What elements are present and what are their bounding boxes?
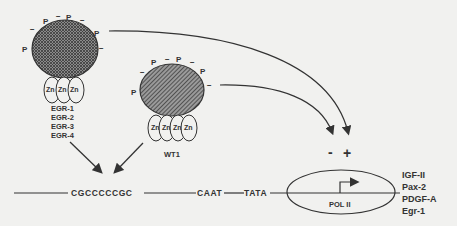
zinc-finger-label: Zn bbox=[173, 124, 182, 131]
pol-ii-label: POL II bbox=[329, 200, 351, 209]
wt1-zinc-fingers: Zn Zn Zn Zn bbox=[148, 115, 197, 141]
egr-label: EGR-1 bbox=[51, 104, 74, 113]
phospho-label: P bbox=[22, 45, 28, 54]
repression-sign: - bbox=[328, 144, 333, 160]
charge-label: − bbox=[165, 55, 170, 64]
target-gene: Pax-2 bbox=[402, 182, 426, 192]
charge-label: − bbox=[56, 12, 61, 21]
charge-label: − bbox=[80, 16, 85, 25]
wt1-protein-body bbox=[140, 64, 204, 116]
phospho-label: P bbox=[200, 67, 206, 76]
target-gene: PDGF-A bbox=[402, 194, 437, 204]
charge-label: − bbox=[99, 44, 104, 53]
zinc-finger-label: Zn bbox=[46, 86, 55, 93]
zinc-finger-label: Zn bbox=[162, 124, 171, 131]
charge-label: − bbox=[30, 25, 35, 34]
phospho-label: P bbox=[66, 13, 72, 22]
phospho-label: P bbox=[131, 88, 137, 97]
activation-sign: + bbox=[343, 145, 351, 161]
tata-box: TATA bbox=[244, 188, 267, 198]
charge-label: − bbox=[207, 81, 212, 90]
egr-label: EGR-2 bbox=[51, 113, 74, 122]
phospho-label: P bbox=[43, 17, 49, 26]
egr-label: EGR-4 bbox=[51, 131, 75, 140]
transcription-regulation-diagram: Zn Zn Zn P P P P − − − − EGR-1 EGR-2 EGR… bbox=[0, 0, 457, 226]
diagram-canvas: Zn Zn Zn P P P P − − − − EGR-1 EGR-2 EGR… bbox=[0, 0, 457, 226]
target-gene: IGF-II bbox=[402, 170, 425, 180]
phospho-label: P bbox=[94, 29, 100, 38]
caat-box: CAAT bbox=[197, 188, 223, 198]
wt1-regulation-arrow bbox=[220, 85, 332, 132]
zinc-finger-label: Zn bbox=[184, 124, 193, 131]
zinc-finger-label: Zn bbox=[58, 86, 67, 93]
zinc-finger-label: Zn bbox=[70, 86, 79, 93]
zinc-finger-label: Zn bbox=[151, 124, 160, 131]
gc-rich-element: CGCCCCCGC bbox=[71, 188, 133, 198]
charge-label: − bbox=[190, 58, 195, 67]
egr-label: EGR-3 bbox=[51, 122, 74, 131]
target-gene: Egr-1 bbox=[402, 206, 425, 216]
phospho-label: P bbox=[151, 58, 157, 67]
target-gene-list: IGF-II Pax-2 PDGF-A Egr-1 bbox=[402, 170, 437, 216]
egr-protein-body bbox=[32, 20, 98, 78]
wt1-binding-arrow bbox=[116, 143, 143, 171]
egr-binding-arrow bbox=[70, 142, 100, 171]
egr-protein: Zn Zn Zn P P P P − − − − EGR-1 EGR-2 EGR… bbox=[22, 12, 104, 140]
wt1-label: WT1 bbox=[164, 150, 180, 159]
transcription-start-arrow bbox=[340, 182, 356, 193]
egr-zinc-fingers: Zn Zn Zn bbox=[44, 77, 84, 103]
charge-label: − bbox=[140, 68, 145, 77]
phospho-label: P bbox=[176, 55, 182, 64]
